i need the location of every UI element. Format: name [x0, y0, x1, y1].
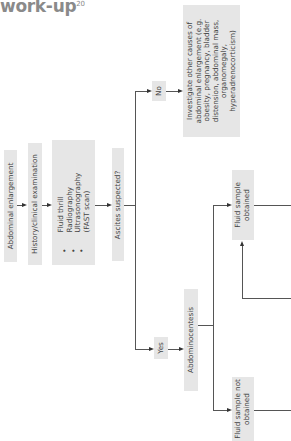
node-no: No [152, 81, 166, 101]
connector [254, 410, 291, 411]
connector [166, 91, 178, 92]
node-label: Investigate other causes of abdominal en… [186, 8, 238, 134]
node-ascites-suspected: Ascites suspected? [112, 148, 124, 261]
connector [135, 349, 149, 350]
bullet-icon: • [78, 240, 87, 260]
node-label: Ascites suspected? [114, 170, 123, 238]
title-reference: 20 [76, 0, 84, 8]
node-label: Yes [157, 342, 166, 354]
node-label: Abdominal enlargement [6, 163, 15, 250]
bullets: • • • [56, 240, 86, 260]
node-history-exam: History/clinical examination [28, 143, 42, 265]
node-abdominocentesis: Abdominocentesis [184, 289, 198, 391]
node-diagnostic-methods: • • • Fluid thrill Radiography Ultrasono… [52, 140, 95, 265]
decision-branch-line [135, 91, 136, 349]
arrow-icon [240, 241, 244, 246]
node-fluid-obtained: Fluid sample obtained [232, 170, 254, 240]
arrow-icon [22, 203, 27, 207]
connector [213, 410, 227, 411]
loop-line [242, 298, 291, 299]
method-item: Fluid thrill [56, 172, 65, 232]
node-label: Fluid sample obtained [234, 174, 251, 236]
connector [124, 205, 135, 206]
diagram-title: work-up20 [0, 0, 85, 16]
loop-line [242, 245, 243, 299]
node-label: No [155, 86, 164, 96]
connector [213, 205, 227, 206]
connector [168, 349, 179, 350]
node-yes: Yes [154, 337, 168, 359]
title-text: work-up [0, 0, 76, 16]
node-abdominal-enlargement: Abdominal enlargement [4, 150, 17, 262]
node-label: Fluid sample not obtained [234, 378, 251, 440]
node-investigate-other: Investigate other causes of abdominal en… [183, 5, 240, 137]
method-item: (FAST scan) [82, 172, 91, 232]
node-fluid-not-obtained: Fluid sample not obtained [232, 377, 254, 441]
methods-list: • • • Fluid thrill Radiography Ultrasono… [56, 145, 90, 260]
outcome-branch-line [213, 205, 214, 411]
bullet-icon: • [60, 240, 69, 260]
connector [95, 205, 107, 206]
connector [135, 91, 147, 92]
connector [254, 205, 291, 206]
node-label: History/clinical examination [31, 154, 40, 254]
node-label: Abdominocentesis [187, 307, 196, 373]
connector [198, 325, 213, 326]
method-item: Ultrasonography [74, 172, 83, 232]
